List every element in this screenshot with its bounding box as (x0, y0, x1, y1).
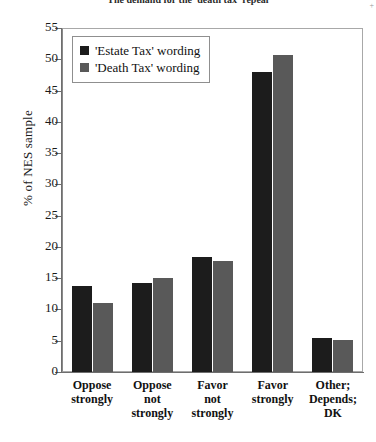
bar-estate-tax (192, 257, 212, 372)
y-axis-tick-label: 5 (18, 333, 58, 346)
x-axis-category-label: Opposestrongly (62, 378, 122, 440)
x-axis-category-label-line: strongly (122, 406, 182, 420)
x-axis-category-label-line: Favor (243, 378, 303, 392)
bar-estate-tax (312, 338, 332, 372)
y-axis-tick-label: 50 (18, 51, 58, 64)
legend-swatch-icon-estate-tax (80, 46, 89, 55)
x-axis-category-label-line: Other; (303, 378, 363, 392)
bar-death-tax (93, 303, 113, 372)
bar-death-tax (213, 261, 233, 372)
y-axis-tick-label: 25 (18, 208, 58, 221)
x-axis-category-label: Favornotstrongly (182, 378, 242, 440)
legend-item-estate-tax: 'Estate Tax' wording (80, 42, 200, 59)
bar-death-tax (273, 55, 293, 372)
figure-title-strip: The demand for the 'death tax' repeal (0, 0, 376, 8)
x-axis-category-label: Other;Depends;DK (303, 378, 363, 440)
x-axis-category-label-line: Depends; (303, 392, 363, 406)
figure-title: The demand for the 'death tax' repeal (107, 0, 268, 5)
legend-label-death-tax: 'Death Tax' wording (95, 60, 200, 76)
x-axis-category-label-line: DK (303, 406, 363, 420)
y-axis-tick-label: 30 (18, 176, 58, 189)
y-axis-tick-label: 45 (18, 83, 58, 96)
x-axis-category-label-line: strongly (243, 392, 303, 406)
chart-figure: The demand for the 'death tax' repeal + … (0, 0, 376, 442)
bar-estate-tax (72, 286, 92, 372)
x-axis-category-label-line: Oppose (122, 378, 182, 392)
x-axis-category-label: Favorstrongly (243, 378, 303, 440)
x-axis-category-label-line: not (122, 392, 182, 406)
x-axis-category-label-line: strongly (182, 406, 242, 420)
corner-mark: + (369, 1, 374, 10)
bar-death-tax (333, 340, 353, 372)
legend: 'Estate Tax' wording 'Death Tax' wording (72, 36, 210, 83)
legend-swatch-icon-death-tax (80, 63, 89, 72)
y-axis-tick-label: 55 (18, 20, 58, 33)
x-axis-category-labels: OpposestronglyOpposenotstronglyFavornots… (62, 378, 363, 440)
bar-estate-tax (132, 283, 152, 372)
x-axis-category-label-line: strongly (62, 392, 122, 406)
y-axis-tick-label: 10 (18, 301, 58, 314)
x-axis-category-label: Opposenotstrongly (122, 378, 182, 440)
y-axis-tick-label: 15 (18, 270, 58, 283)
legend-item-death-tax: 'Death Tax' wording (80, 59, 200, 76)
x-axis-category-label-line: Favor (182, 378, 242, 392)
legend-label-estate-tax: 'Estate Tax' wording (95, 43, 200, 59)
y-axis-tick-label: 20 (18, 239, 58, 252)
y-axis-tick-label: 35 (18, 145, 58, 158)
y-axis-tick-label: 40 (18, 114, 58, 127)
x-axis-category-label-line: Oppose (62, 378, 122, 392)
x-axis-line (61, 372, 364, 373)
x-axis-category-label-line: not (182, 392, 242, 406)
y-axis-tick-label: 0 (18, 364, 58, 377)
bar-death-tax (153, 278, 173, 372)
bar-estate-tax (252, 72, 272, 372)
